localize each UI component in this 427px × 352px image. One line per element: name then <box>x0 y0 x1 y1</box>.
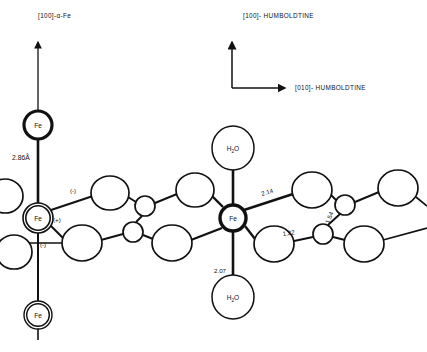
axis-label-alpha-fe: [100]-α-Fe <box>38 12 71 20</box>
bond-c-o-5 <box>333 237 345 240</box>
bond-o-fe-lower-left <box>191 228 222 240</box>
oxygen-atom <box>176 173 214 207</box>
iron-atom-middle-label: Fe <box>34 215 42 222</box>
bond-c-o-1 <box>155 194 177 203</box>
bond-c-o-4 <box>355 192 379 202</box>
bond-fe-o-214 <box>244 194 293 210</box>
charge-label-positive: (+) <box>53 216 61 223</box>
bond-c-o-2 <box>101 234 123 240</box>
bond-c-o-3 <box>143 235 153 239</box>
bond-label-207: 2.07 <box>214 267 227 274</box>
bond-edge-right-lower <box>383 228 427 240</box>
bond-o-c-1 <box>128 197 136 202</box>
distance-label-fe-fe: 2.86Å <box>12 153 30 161</box>
iron-atom-top-label: Fe <box>34 122 42 129</box>
charge-label-negative-lower: (-) <box>40 241 46 248</box>
carbon-atom <box>313 224 333 244</box>
water-molecule-bottom <box>212 275 254 319</box>
oxygen-atom <box>0 235 32 269</box>
oxygen-atom <box>344 226 384 262</box>
axis-label-humboldtine-100: [100]- HUMBOLDTINE <box>243 12 314 20</box>
carbon-atom <box>335 195 355 215</box>
oxygen-atom <box>292 172 332 208</box>
humboldtine-axis-group <box>232 42 285 88</box>
oxygen-atom <box>0 179 23 213</box>
oxygen-atom <box>62 225 102 261</box>
bond-edge-right-upper <box>416 197 427 206</box>
bond-label-214: 2.14 <box>260 187 274 197</box>
carbon-atom <box>135 196 155 216</box>
iron-atom-central-label: Fe <box>229 215 237 222</box>
diagram-canvas: Fe Fe Fe Fe H2O H2O 2.86Å 2.14 2.07 1.54… <box>0 0 427 352</box>
charge-label-negative-upper: (-) <box>70 187 76 194</box>
oxygen-atoms-group <box>0 170 418 269</box>
bond-o-fe-upper-left <box>212 196 223 207</box>
oxygen-atom <box>378 170 418 206</box>
crystal-structure-diagram: Fe Fe Fe Fe H2O H2O 2.86Å 2.14 2.07 1.54… <box>0 0 427 352</box>
bond-fe-o-207 <box>245 226 255 239</box>
bond-c-o-122 <box>294 237 313 241</box>
water-molecule-top <box>212 126 254 170</box>
bond-fe-o-2 <box>51 226 63 238</box>
bond-label-122: 1.22 <box>282 228 296 237</box>
carbon-atom <box>123 222 143 242</box>
oxygen-atom <box>91 176 129 210</box>
oxygen-atom <box>152 225 192 261</box>
bond-fe-o-1 <box>51 196 93 210</box>
bond-label-154: 1.54 <box>323 210 334 224</box>
bond-c-c-left <box>136 216 142 222</box>
axis-label-humboldtine-010: [010]- HUMBOLDTINE <box>295 84 366 92</box>
iron-atom-bottom-label: Fe <box>34 312 42 319</box>
